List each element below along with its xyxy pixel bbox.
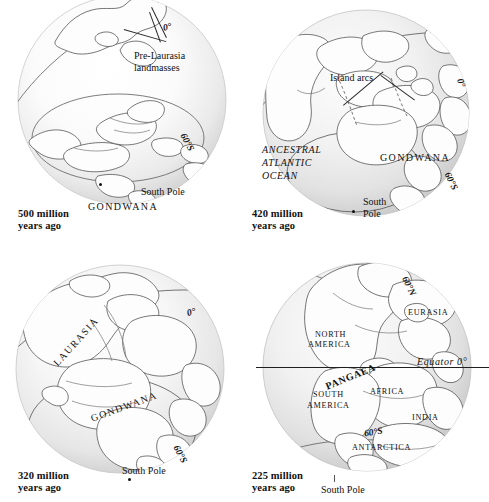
label-south-pole: South Pole xyxy=(321,484,365,495)
panel-420-million: Island arcs 0° ANCESTRAL ATLANTIC OCEAN … xyxy=(245,0,489,251)
age-label-320-line1: 320 million xyxy=(18,470,69,482)
age-label-420-line2: years ago xyxy=(252,220,295,232)
age-label-320-line2: years ago xyxy=(18,482,61,494)
panel-225-million: 60°N EURASIA NORTH AMERICA Equator 0° PA… xyxy=(245,251,489,502)
label-ancestral-ocean-line1: ANCESTRAL xyxy=(262,144,321,157)
label-equator: Equator 0° xyxy=(417,356,467,369)
globe-500-million xyxy=(14,0,230,212)
south-pole-marker xyxy=(352,210,355,213)
label-prime-meridian: 0° xyxy=(162,21,172,33)
label-south-america-line1: SOUTH xyxy=(313,390,344,399)
globe-320-million xyxy=(12,261,228,477)
label-africa: AFRICA xyxy=(370,387,404,396)
label-south-pole: South Pole xyxy=(141,186,185,197)
south-pole-tick xyxy=(334,475,335,482)
label-gondwana: GONDWANA xyxy=(380,152,450,163)
label-pre-laurasia-line1: Pre-Laurasia xyxy=(134,50,185,61)
label-south-pole-line1: South xyxy=(363,196,386,207)
label-prime-meridian: 0° xyxy=(186,306,197,318)
south-pole-marker xyxy=(99,183,102,186)
globe-420-million xyxy=(259,6,473,220)
panel-500-million: 0° Pre-Laurasia landmasses 60°S South Po… xyxy=(0,0,244,251)
age-label-225-line2: years ago xyxy=(252,482,295,494)
label-north-america-line1: NORTH xyxy=(315,330,346,339)
age-label-500-line2: years ago xyxy=(18,220,61,232)
label-india: INDIA xyxy=(412,413,439,422)
age-label-225-line1: 225 million xyxy=(252,470,303,482)
label-ancestral-ocean-line3: OCEAN xyxy=(262,170,298,183)
label-ancestral-ocean-line2: ATLANTIC xyxy=(262,157,312,170)
panel-320-million: 0° LAURASIA GONDWANA 60°S South Pole 320… xyxy=(0,251,244,502)
label-south-pole: South Pole xyxy=(122,465,166,476)
age-label-500-line1: 500 million xyxy=(18,208,69,220)
label-eurasia: EURASIA xyxy=(408,308,448,317)
label-pre-laurasia-line2: landmasses xyxy=(134,62,180,73)
south-pole-marker xyxy=(128,478,131,481)
label-south-pole-line2: Pole xyxy=(363,208,381,219)
label-north-america-line2: AMERICA xyxy=(308,340,351,349)
label-south-america-line2: AMERICA xyxy=(307,401,350,410)
label-island-arcs: Island arcs xyxy=(330,72,373,83)
label-antarctica: ANTARCTICA xyxy=(352,443,411,452)
age-label-420-line1: 420 million xyxy=(252,208,303,220)
label-gondwana: GONDWANA xyxy=(88,201,158,212)
